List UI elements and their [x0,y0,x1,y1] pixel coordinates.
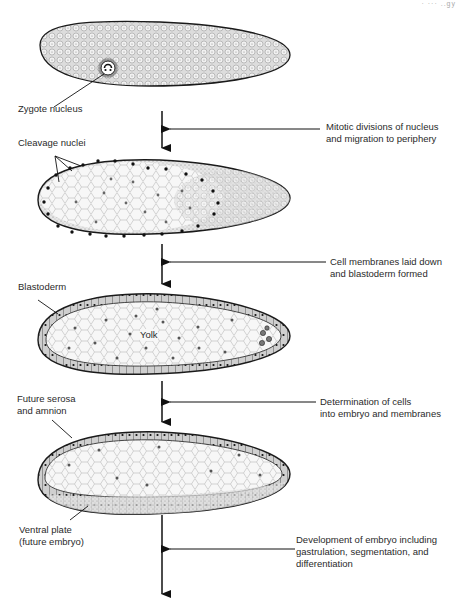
egg-determination [38,420,290,520]
transition-2-text: Cell membranes laid down and blastoderm … [330,256,442,280]
yolk-label: Yolk [140,329,158,341]
transition-1-text: Mitotic divisions of nucleus and migrati… [326,121,438,145]
serosa-leader-line [52,420,72,438]
egg-blastoderm [38,294,290,374]
egg-zygote [40,21,290,107]
ventral-plate-label: Ventral plate (future embryo) [19,524,84,548]
future-serosa-label: Future serosa and amnion [17,393,76,417]
zygote-nucleus-icon [98,58,118,78]
cleavage-nuclei-label: Cleavage nuclei [18,137,86,149]
page-header-fragment: · ··· ..gy [422,0,457,7]
egg-cleavage [38,156,290,238]
transition-4-text: Development of embryo including gastrula… [296,534,437,570]
zygote-nucleus-label: Zygote nucleus [18,103,82,115]
insect-embryo-development-diagram [0,0,468,608]
transition-3-text: Determination of cells into embryo and m… [320,396,441,420]
blastoderm-leader-line [38,300,58,314]
blastoderm-label: Blastoderm [18,281,66,293]
